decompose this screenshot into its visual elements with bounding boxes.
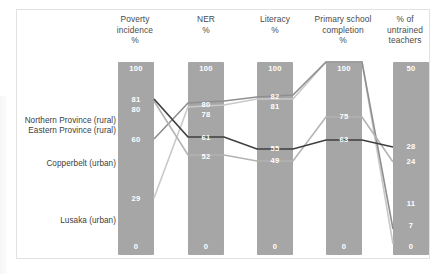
tick-literacy-49: 49 xyxy=(257,156,293,165)
tick-untrained-0: 0 xyxy=(393,242,429,251)
tick-literacy-55: 55 xyxy=(257,144,293,153)
tick-ner-61: 61 xyxy=(188,133,224,142)
tick-poverty-29: 29 xyxy=(118,194,154,203)
tick-poverty-80: 80 xyxy=(118,105,154,114)
tick-untrained-11: 11 xyxy=(393,199,429,208)
tick-literacy-100: 100 xyxy=(257,64,293,73)
tick-primary-75: 75 xyxy=(326,112,362,121)
tick-poverty-100: 100 xyxy=(118,64,154,73)
tick-untrained-7: 7 xyxy=(393,221,429,230)
series-label-lusaka: Lusaka (urban) xyxy=(10,216,116,225)
tick-ner-78: 78 xyxy=(188,110,224,119)
series-label-copperbelt: Copperbelt (urban) xyxy=(10,159,116,168)
tick-ner-100: 100 xyxy=(188,64,224,73)
tick-ner-52: 52 xyxy=(188,152,224,161)
tick-primary-100: 100 xyxy=(326,64,362,73)
tick-primary-63: 63 xyxy=(326,135,362,144)
tick-poverty-0: 0 xyxy=(118,242,154,251)
chart-frame: Poverty incidence % NER % Literacy % Pri… xyxy=(0,0,444,274)
tick-primary-0: 0 xyxy=(326,242,362,251)
tick-untrained-24: 24 xyxy=(393,157,429,166)
tick-untrained-28: 28 xyxy=(393,142,429,151)
tick-literacy-82: 82 xyxy=(257,92,293,101)
tick-ner-80: 80 xyxy=(188,100,224,109)
tick-untrained-50: 50 xyxy=(393,64,429,73)
series-label-northern-province: Northern Province (rural) xyxy=(10,116,116,125)
tick-poverty-81: 81 xyxy=(118,95,154,104)
tick-literacy-0: 0 xyxy=(257,242,293,251)
tick-ner-0: 0 xyxy=(188,242,224,251)
tick-poverty-60: 60 xyxy=(118,135,154,144)
series-label-eastern-province: Eastern Province (rural) xyxy=(10,126,116,135)
tick-literacy-81: 81 xyxy=(257,102,293,111)
